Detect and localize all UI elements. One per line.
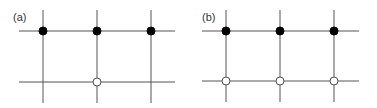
panel-a: (a) (13, 10, 175, 103)
open-node (222, 77, 230, 85)
filled-node (222, 27, 230, 35)
lattice-diagram: (a) (b) (0, 0, 377, 108)
open-node (93, 78, 101, 86)
open-node (276, 77, 284, 85)
panel-a-label: (a) (13, 11, 26, 23)
filled-node (330, 27, 338, 35)
panel-b-label: (b) (202, 11, 215, 23)
filled-node (276, 27, 284, 35)
filled-node (147, 27, 155, 35)
filled-node (39, 27, 47, 35)
filled-node (93, 27, 101, 35)
panel-b: (b) (202, 10, 359, 102)
open-node (330, 77, 338, 85)
